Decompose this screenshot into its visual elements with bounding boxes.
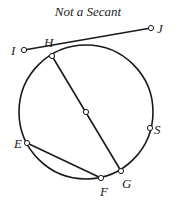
diagram-title: Not a Secant (54, 4, 122, 19)
point-j (148, 25, 153, 30)
point-g (118, 168, 123, 173)
point-s (147, 125, 152, 130)
chord-ef (27, 143, 101, 178)
point-label-g: G (122, 176, 132, 191)
point-f (98, 175, 103, 180)
center-point (83, 109, 88, 114)
diagram-canvas: Not a Secant IJHSEFG (0, 0, 177, 203)
point-i (21, 47, 26, 52)
point-label-f: F (99, 184, 109, 199)
point-label-i: I (10, 43, 16, 58)
point-e (24, 140, 29, 145)
point-label-s: S (154, 122, 161, 137)
point-label-e: E (13, 136, 22, 151)
point-label-j: J (157, 21, 164, 36)
point-label-h: H (43, 35, 54, 50)
point-h (49, 53, 54, 58)
